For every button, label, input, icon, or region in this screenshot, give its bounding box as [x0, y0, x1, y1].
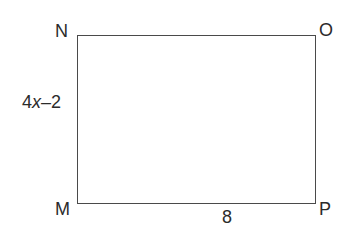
- vertex-label-p: P: [319, 200, 331, 218]
- rectangle-mnop: [77, 35, 316, 204]
- coefficient: 4: [22, 92, 32, 112]
- rectangle-diagram: N O M P 4x–2 8: [0, 0, 349, 241]
- side-length-label-mp: 8: [222, 208, 232, 226]
- vertex-label-n: N: [55, 22, 68, 40]
- variable-x: x: [32, 92, 41, 112]
- vertex-label-m: M: [55, 200, 70, 218]
- constant-term: –2: [41, 92, 61, 112]
- vertex-label-o: O: [319, 21, 333, 39]
- side-length-label-mn: 4x–2: [22, 93, 61, 111]
